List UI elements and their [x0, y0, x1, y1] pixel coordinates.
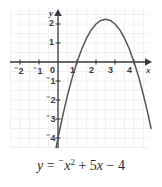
xtick-label-1: 1: [70, 66, 75, 75]
xtick-label-0: 0: [50, 66, 55, 75]
equation-minus: −: [107, 158, 115, 173]
ytick-label-1: 1: [49, 38, 54, 47]
x-axis-label: x: [146, 66, 151, 75]
xtick-label-4: 4: [127, 66, 132, 75]
xtick-label-neg1: ⁻1: [33, 66, 43, 76]
graph-figure: ⁻2 ⁻1 0 1 2 3 4 2 1 ⁻1 ⁻2 ⁻3 ⁻4 y x y = …: [0, 0, 162, 187]
equation-caption: y = ⁻x2 + 5x − 4: [0, 157, 162, 173]
equation-equals: =: [47, 158, 55, 173]
xtick-label-3: 3: [108, 66, 113, 75]
xtick-label-2: 2: [89, 66, 94, 75]
ytick-label-neg3: ⁻3: [46, 114, 56, 124]
equation-term2-variable: x: [97, 158, 103, 173]
grid-lines: [10, 7, 149, 148]
xtick-label-neg2: ⁻2: [14, 66, 24, 76]
ytick-label-2: 2: [49, 19, 54, 28]
coordinate-plane: [0, 0, 162, 162]
ytick-label-neg1: ⁻1: [46, 76, 56, 86]
equation-term1-exponent: 2: [70, 157, 75, 167]
equation-plus: +: [78, 158, 86, 173]
equation-term2-coefficient: 5: [90, 158, 97, 173]
ytick-label-neg2: ⁻2: [46, 95, 56, 105]
equation-constant: 4: [118, 158, 125, 173]
equation-lhs: y: [37, 158, 43, 173]
y-axis-label: y: [49, 9, 53, 18]
ytick-label-neg4: ⁻4: [46, 133, 56, 143]
